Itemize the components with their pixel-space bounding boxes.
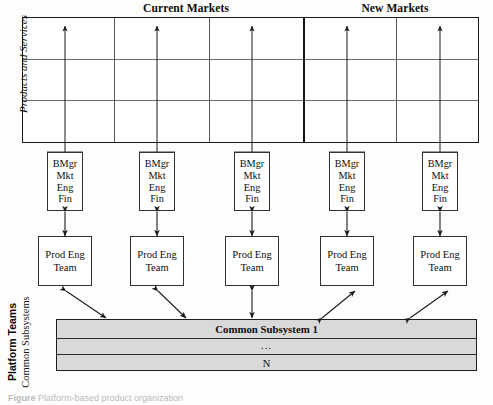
- business-unit-line-eng-3: Eng: [244, 182, 261, 194]
- business-unit-box-2: BMgr Mkt Eng Fin: [139, 152, 175, 211]
- product-team-line-1b: Team: [53, 261, 76, 274]
- business-unit-line-bmgr-1: BMgr: [53, 158, 78, 170]
- business-unit-line-mkt-3: Mkt: [243, 170, 260, 182]
- product-team-line-2a: Prod Eng: [137, 248, 176, 261]
- business-unit-line-fin-4: Fin: [340, 193, 354, 205]
- heading-new-markets: New Markets: [320, 2, 470, 14]
- business-unit-box-5: BMgr Mkt Eng Fin: [422, 152, 458, 211]
- business-unit-line-mkt-1: Mkt: [56, 170, 73, 182]
- product-team-line-3b: Team: [240, 261, 263, 274]
- link-prodteam-platform-1: [66, 291, 106, 318]
- product-team-line-5b: Team: [428, 261, 451, 274]
- product-team-box-1: Prod Eng Team: [38, 236, 92, 286]
- product-team-line-4b: Team: [335, 261, 358, 274]
- business-unit-line-eng-1: Eng: [57, 182, 74, 194]
- platform-band-common-subsystem-1: Common Subsystem 1: [57, 320, 476, 339]
- link-prodteam-platform-4: [322, 291, 355, 318]
- business-unit-line-fin-1: Fin: [58, 193, 72, 205]
- business-unit-line-bmgr-2: BMgr: [145, 158, 170, 170]
- platform-teams-axis-label: Platform Teams Common Subsystems: [6, 296, 34, 388]
- heading-current-markets: Current Markets: [106, 2, 266, 14]
- business-unit-line-fin-5: Fin: [433, 193, 447, 205]
- product-team-line-4a: Prod Eng: [327, 248, 366, 261]
- business-unit-line-bmgr-3: BMgr: [240, 158, 265, 170]
- product-team-line-5a: Prod Eng: [420, 248, 459, 261]
- business-unit-box-1: BMgr Mkt Eng Fin: [47, 152, 83, 211]
- product-team-box-3: Prod Eng Team: [225, 236, 279, 286]
- matrix-col-divider-2: [209, 18, 210, 142]
- business-unit-line-fin-3: Fin: [245, 193, 259, 205]
- matrix-market-divider: [303, 18, 305, 142]
- products-markets-matrix: [22, 17, 479, 143]
- product-team-box-2: Prod Eng Team: [130, 236, 184, 286]
- business-unit-line-mkt-5: Mkt: [431, 170, 448, 182]
- matrix-col-divider-1: [114, 18, 115, 142]
- business-unit-line-eng-4: Eng: [339, 182, 356, 194]
- matrix-col-divider-4: [396, 18, 397, 142]
- figure-caption: Figure Platform-based product organizati…: [8, 393, 183, 403]
- platform-band-ellipsis: ...: [57, 339, 476, 355]
- matrix-row-divider-2: [23, 100, 478, 101]
- business-unit-line-mkt-2: Mkt: [148, 170, 165, 182]
- business-unit-line-bmgr-5: BMgr: [428, 158, 453, 170]
- business-unit-line-eng-2: Eng: [149, 182, 166, 194]
- business-unit-box-4: BMgr Mkt Eng Fin: [329, 152, 365, 211]
- link-prodteam-platform-2: [158, 291, 186, 318]
- common-subsystems-platform: Common Subsystem 1 ... N: [56, 319, 477, 371]
- business-unit-line-eng-5: Eng: [432, 182, 449, 194]
- products-and-services-axis-label: Products and Services: [16, 10, 30, 118]
- business-unit-line-fin-2: Fin: [150, 193, 164, 205]
- figure-canvas: Current Markets New Markets Products and…: [0, 0, 493, 405]
- platform-band-n: N: [57, 355, 476, 372]
- business-unit-line-bmgr-4: BMgr: [335, 158, 360, 170]
- platform-teams-label-regular: Common Subsystems: [19, 296, 32, 388]
- figure-caption-prefix: Figure: [8, 393, 36, 403]
- link-prodteam-platform-5: [410, 291, 448, 318]
- product-team-box-4: Prod Eng Team: [320, 236, 374, 286]
- platform-teams-label-bold: Platform Teams: [6, 296, 19, 388]
- product-team-box-5: Prod Eng Team: [413, 236, 467, 286]
- figure-caption-text: Platform-based product organization: [38, 393, 183, 403]
- product-team-line-2b: Team: [145, 261, 168, 274]
- business-unit-line-mkt-4: Mkt: [338, 170, 355, 182]
- matrix-row-divider-1: [23, 59, 478, 60]
- business-unit-box-3: BMgr Mkt Eng Fin: [234, 152, 270, 211]
- product-team-line-3a: Prod Eng: [232, 248, 271, 261]
- product-team-line-1a: Prod Eng: [45, 248, 84, 261]
